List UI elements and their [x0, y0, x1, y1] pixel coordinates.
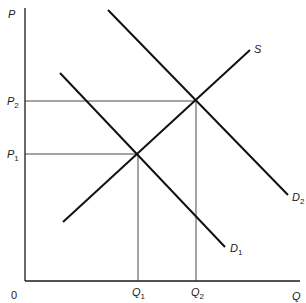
supply-label: S: [254, 43, 262, 55]
x-axis-label: Q: [292, 290, 301, 302]
demand-1-label: D1: [230, 242, 243, 257]
supply-curve: [63, 50, 250, 222]
p1-label: P1: [7, 148, 19, 163]
demand-curve-1: [60, 73, 225, 247]
supply-demand-diagram: P Q 0 P2 P1 Q1 Q2 S D1 D2: [0, 0, 306, 303]
p2-label: P2: [7, 95, 19, 110]
q1-label: Q1: [132, 286, 146, 301]
demand-2-label: D2: [292, 191, 305, 206]
q2-label: Q2: [191, 286, 205, 301]
origin-label: 0: [11, 289, 17, 301]
y-axis-label: P: [8, 8, 16, 20]
demand-curve-2: [108, 10, 288, 195]
